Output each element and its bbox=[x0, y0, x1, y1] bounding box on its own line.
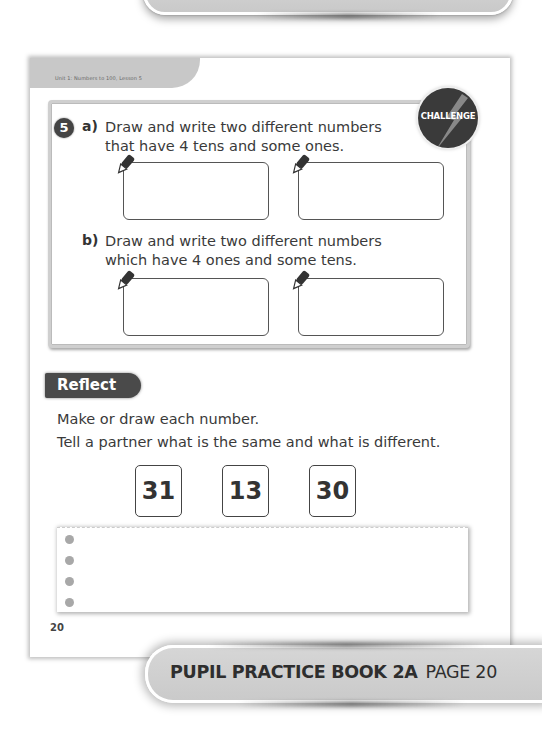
part-b-line2: which have 4 ones and some tens. bbox=[105, 251, 357, 270]
pencil-icon bbox=[289, 270, 311, 292]
footer-banner: PUPIL PRACTICE BOOK 2APAGE 20 bbox=[145, 645, 542, 703]
bullet-dot bbox=[65, 577, 74, 586]
lightning-bolt-icon bbox=[432, 94, 468, 148]
worksheet-view: Unit 1: Numbers to 100, Lesson 5 CHALLEN… bbox=[0, 0, 542, 746]
part-b-label: b) bbox=[82, 232, 98, 248]
answer-box-b1[interactable] bbox=[123, 278, 269, 336]
pencil-icon bbox=[114, 154, 136, 176]
pencil-icon bbox=[289, 154, 311, 176]
footer-page: PAGE 20 bbox=[426, 662, 497, 682]
reflect-heading: Reflect bbox=[45, 373, 141, 398]
answer-box-b2[interactable] bbox=[298, 278, 444, 336]
challenge-badge: CHALLENGE bbox=[418, 88, 478, 148]
book-name: PUPIL PRACTICE BOOK 2A bbox=[170, 662, 418, 682]
part-b-line1: Draw and write two different numbers bbox=[105, 232, 382, 251]
answer-box-a2[interactable] bbox=[298, 162, 444, 220]
page-number: 20 bbox=[50, 622, 64, 633]
reflect-instruction-1: Make or draw each number. bbox=[57, 411, 259, 427]
unit-tab: Unit 1: Numbers to 100, Lesson 5 bbox=[30, 58, 200, 88]
bullet-dot bbox=[65, 535, 74, 544]
reflect-instruction-2: Tell a partner what is the same and what… bbox=[57, 434, 440, 450]
reflect-title: Reflect bbox=[57, 376, 116, 394]
pencil-icon bbox=[114, 270, 136, 292]
number-card-30: 30 bbox=[309, 465, 356, 517]
workbook-page: Unit 1: Numbers to 100, Lesson 5 CHALLEN… bbox=[30, 58, 510, 657]
reflection-writing-area[interactable] bbox=[57, 527, 468, 612]
number-card-13: 13 bbox=[222, 465, 269, 517]
challenge-label: CHALLENGE bbox=[418, 111, 478, 121]
top-banner bbox=[143, 0, 513, 15]
bullet-dot bbox=[65, 556, 74, 565]
part-a-label: a) bbox=[82, 118, 98, 134]
part-a-line1: Draw and write two different numbers bbox=[105, 118, 382, 137]
unit-label: Unit 1: Numbers to 100, Lesson 5 bbox=[55, 75, 142, 81]
answer-box-a1[interactable] bbox=[123, 162, 269, 220]
footer-title: PUPIL PRACTICE BOOK 2APAGE 20 bbox=[170, 662, 497, 682]
number-card-31: 31 bbox=[135, 465, 182, 517]
bullet-dot bbox=[65, 598, 74, 607]
question-number-badge: 5 bbox=[54, 118, 74, 138]
